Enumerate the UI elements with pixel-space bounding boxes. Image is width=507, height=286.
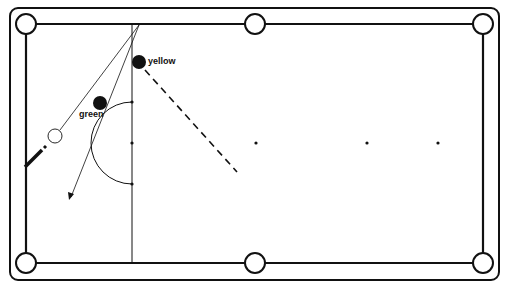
arrow-head-icon [68, 192, 74, 200]
green-ball-label: green [79, 109, 104, 119]
table-outer-frame [10, 8, 499, 280]
brown-spot [130, 141, 133, 144]
yellow-ball-label: yellow [148, 56, 176, 66]
d-bottom-point [130, 182, 133, 185]
yellow-ball [132, 55, 146, 69]
pocket-bottom-middle [245, 253, 265, 273]
cue-tip [44, 146, 46, 148]
black-spot [436, 141, 439, 144]
pocket-top-right [473, 14, 493, 34]
d-top-point [130, 100, 133, 103]
pocket-top-middle [245, 14, 265, 34]
yellow-pot-path [145, 70, 237, 172]
blue-spot [254, 141, 257, 144]
pocket-bottom-right [473, 253, 493, 273]
pink-spot [365, 141, 368, 144]
cue-stick [25, 150, 42, 167]
cue-ball [48, 129, 62, 143]
pocket-top-left [16, 14, 36, 34]
pocket-bottom-left [16, 253, 36, 273]
snooker-table-diagram [0, 0, 507, 286]
green-ball [93, 96, 107, 110]
